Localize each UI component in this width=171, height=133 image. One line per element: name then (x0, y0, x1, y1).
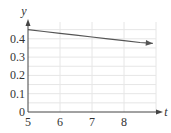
y-tick-label: 0.2 (10, 68, 25, 82)
y-tick-label: 0.1 (10, 87, 25, 101)
y-tick-label: 0 (19, 105, 25, 119)
grid (28, 22, 156, 112)
data-series (28, 30, 153, 46)
y-axis-label: y (20, 4, 27, 18)
x-axis-label: t (164, 105, 168, 119)
y-tick-label: 0.4 (10, 32, 25, 46)
y-axis-arrow-icon (26, 19, 31, 26)
curve-arrow-icon (146, 40, 153, 46)
x-tick-label: 7 (89, 115, 95, 129)
curve-line (28, 30, 153, 44)
y-tick-label: 0.3 (10, 50, 25, 64)
x-tick-label: 8 (121, 115, 127, 129)
x-tick-label: 5 (25, 115, 31, 129)
x-tick-label: 6 (57, 115, 63, 129)
x-axis-arrow-icon (156, 110, 163, 115)
line-chart: 567800.10.20.30.4 y t (0, 0, 171, 133)
